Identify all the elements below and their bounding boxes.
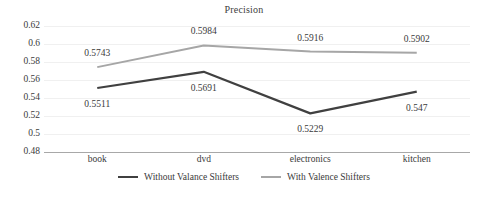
precision-line-chart: Precision 0.620.60.580.560.540.520.50.48… [0,0,488,198]
x-axis-category: electronics [290,154,331,164]
y-axis-tick: 0.5 [0,129,40,139]
legend-item[interactable]: Without Valance Shifters [118,172,239,182]
y-axis-tick: 0.6 [0,39,40,49]
x-axis-category: book [88,154,107,164]
y-axis-tick: 0.54 [0,93,40,103]
x-axis-category-labels: bookdvdelectronicskitchen [44,154,470,170]
data-label: 0.5984 [191,26,217,36]
y-axis-tick-labels: 0.620.60.580.560.540.520.50.48 [0,26,40,152]
legend-line-icon [118,176,138,179]
y-axis-tick: 0.52 [0,111,40,121]
legend-item[interactable]: With Valence Shifters [261,172,370,182]
chart-legend: Without Valance ShiftersWith Valence Shi… [0,172,488,182]
plot-area: 0.55110.56910.52290.5470.57430.59840.591… [44,26,470,152]
series-line [97,72,417,114]
data-label: 0.5691 [191,83,217,93]
series-line [97,45,417,67]
legend-label: With Valence Shifters [287,172,370,182]
x-axis-line [44,152,470,153]
data-label: 0.5743 [84,48,110,58]
data-label: 0.5511 [84,99,110,109]
y-axis-tick: 0.62 [0,21,40,31]
legend-label: Without Valance Shifters [144,172,239,182]
x-axis-category: kitchen [403,154,431,164]
series-lines [44,26,470,152]
data-label: 0.5902 [404,34,430,44]
chart-title: Precision [0,4,488,15]
x-axis-category: dvd [197,154,211,164]
legend-line-icon [261,176,281,179]
data-label: 0.5916 [297,33,323,43]
data-label: 0.547 [406,103,427,113]
y-axis-tick: 0.58 [0,57,40,67]
y-axis-tick: 0.56 [0,75,40,85]
data-label: 0.5229 [297,124,323,134]
y-axis-tick: 0.48 [0,147,40,157]
